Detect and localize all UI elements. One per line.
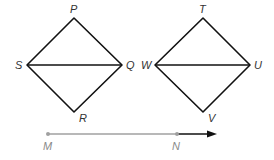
point-m — [46, 132, 50, 136]
label-t: T — [199, 3, 207, 15]
label-n: N — [172, 140, 180, 152]
quadrilateral-pqrs — [27, 18, 122, 112]
point-n — [175, 132, 179, 136]
label-w: W — [141, 59, 153, 71]
label-p: P — [70, 3, 78, 15]
label-m: M — [43, 140, 53, 152]
diagram-canvas: P Q R S T U V W M N — [0, 0, 274, 160]
label-u: U — [254, 59, 262, 71]
quadrilateral-tuvw — [155, 18, 250, 112]
label-q: Q — [126, 59, 135, 71]
label-r: R — [79, 112, 87, 124]
arrowhead-icon — [207, 131, 217, 138]
ray-mn — [46, 131, 217, 138]
label-v: V — [208, 112, 217, 124]
label-s: S — [15, 59, 23, 71]
